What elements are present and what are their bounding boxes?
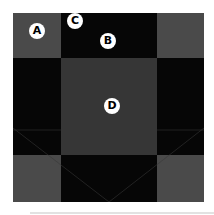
badge-c: C bbox=[67, 13, 83, 29]
badge-a: A bbox=[29, 23, 45, 39]
divider-line bbox=[30, 212, 214, 214]
badge-d: D bbox=[104, 98, 120, 114]
badge-b: B bbox=[100, 33, 116, 49]
